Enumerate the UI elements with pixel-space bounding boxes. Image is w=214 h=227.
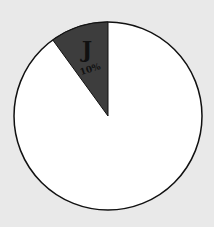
pie-chart: J 10%	[0, 0, 214, 227]
slice-j-label: J	[80, 36, 92, 62]
